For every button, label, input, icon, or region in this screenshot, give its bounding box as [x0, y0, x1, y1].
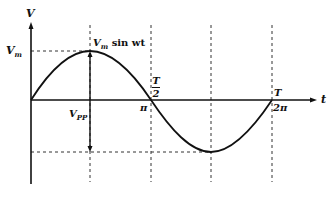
vm-label: Vm	[6, 45, 22, 58]
two-pi-label: 2π	[273, 103, 287, 113]
pi-label: π	[140, 103, 147, 113]
t-full-label: T	[274, 88, 281, 98]
sine-wave-diagram	[0, 0, 333, 197]
x-axis-label: t	[321, 94, 326, 105]
vpp-label: VPP	[69, 109, 87, 121]
sine-curve	[31, 51, 272, 152]
x-axis-arrow-icon	[310, 98, 317, 103]
vpp-arrow-down-icon	[88, 146, 93, 152]
y-axis-arrow-icon	[29, 22, 34, 29]
y-axis-label: V	[26, 8, 35, 19]
curve-expression-label: Vm sin wt	[93, 38, 145, 50]
t-half-label: T 2	[152, 76, 160, 99]
